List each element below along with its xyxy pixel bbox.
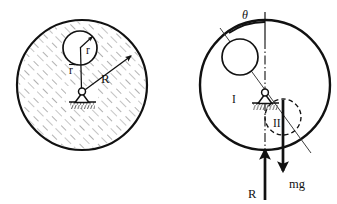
- left-geometry-panel: r r R: [10, 13, 160, 163]
- support-pin-circle: [262, 89, 269, 96]
- circular-hole-outline: [222, 39, 258, 75]
- label-disk-radius: R: [101, 71, 110, 86]
- label-region-one: I: [232, 93, 236, 105]
- label-region-two: II: [273, 117, 281, 129]
- label-theta: θ: [242, 8, 248, 22]
- support-pin-circle: [79, 88, 86, 95]
- label-reaction-force: R: [248, 187, 257, 201]
- right-free-body-panel: θ I II mg R: [200, 8, 330, 201]
- label-hole-radius: r: [86, 44, 90, 56]
- label-offset-distance: r: [69, 64, 73, 76]
- label-weight-force: mg: [289, 177, 306, 191]
- mechanics-figure: r r R: [0, 0, 337, 204]
- figure-root: r r R: [0, 0, 337, 204]
